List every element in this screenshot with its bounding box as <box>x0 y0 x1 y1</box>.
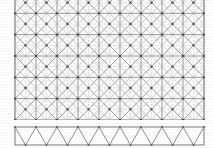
grid-node <box>98 12 100 14</box>
truss-top-node <box>98 126 100 128</box>
grid-node <box>129 44 131 46</box>
grid-node <box>87 66 89 68</box>
grid-node <box>108 66 110 68</box>
truss-top-node <box>203 126 205 128</box>
grid-node <box>140 34 142 36</box>
grid-node <box>171 87 173 89</box>
grid-node <box>203 76 205 78</box>
grid-node <box>66 108 68 110</box>
grid-node <box>150 44 152 46</box>
grid-node <box>24 23 26 25</box>
grid-node <box>66 2 68 4</box>
truss-top-node <box>14 126 16 128</box>
grid-node <box>24 66 26 68</box>
grid-node <box>192 23 194 25</box>
grid-node <box>56 12 58 14</box>
truss-bottom-node <box>67 144 69 146</box>
grid-node <box>108 2 110 4</box>
grid-node <box>161 55 163 57</box>
grid-node <box>182 12 184 14</box>
grid-node <box>35 34 37 36</box>
truss-top-node <box>35 126 37 128</box>
grid-node <box>192 44 194 46</box>
grid-node <box>66 87 68 89</box>
truss-bottom-node <box>193 144 195 146</box>
grid-node <box>24 108 26 110</box>
grid-node <box>182 98 184 100</box>
grid-node <box>35 55 37 57</box>
grid-node <box>98 98 100 100</box>
grid-node <box>171 44 173 46</box>
grid-node <box>77 34 79 36</box>
grid-node <box>150 2 152 4</box>
grid-node <box>45 23 47 25</box>
grid-node <box>66 44 68 46</box>
grid-node <box>14 12 16 14</box>
truss-bottom-node <box>25 144 27 146</box>
grid-node <box>150 23 152 25</box>
grid-node <box>192 66 194 68</box>
truss-bottom-node <box>109 144 111 146</box>
grid-node <box>161 34 163 36</box>
grid-node <box>150 66 152 68</box>
grid-node <box>56 76 58 78</box>
grid-node <box>150 87 152 89</box>
grid-node <box>171 2 173 4</box>
grid-node <box>203 12 205 14</box>
grid-node <box>66 23 68 25</box>
truss-top-node <box>161 126 163 128</box>
grid-node <box>56 34 58 36</box>
grid-node <box>108 108 110 110</box>
grid-node <box>182 34 184 36</box>
grid-node <box>24 2 26 4</box>
truss-drawing-svg <box>0 0 213 148</box>
grid-node <box>56 55 58 57</box>
grid-node <box>77 98 79 100</box>
grid-node <box>14 98 16 100</box>
drawing-canvas <box>0 0 213 148</box>
grid-node <box>98 34 100 36</box>
truss-bottom-node <box>172 144 174 146</box>
grid-node <box>140 76 142 78</box>
grid-node <box>129 66 131 68</box>
truss-top-node <box>77 126 79 128</box>
grid-node <box>45 108 47 110</box>
grid-node <box>87 44 89 46</box>
grid-node <box>45 87 47 89</box>
grid-node <box>119 12 121 14</box>
grid-node <box>203 55 205 57</box>
grid-node <box>56 98 58 100</box>
grid-node <box>119 76 121 78</box>
truss-top-node <box>56 126 58 128</box>
grid-node <box>129 2 131 4</box>
grid-node <box>192 2 194 4</box>
grid-node <box>14 76 16 78</box>
grid-node <box>129 108 131 110</box>
grid-node <box>77 12 79 14</box>
truss-bottom-node <box>130 144 132 146</box>
grid-node <box>171 66 173 68</box>
grid-node <box>171 23 173 25</box>
truss-bottom-node <box>151 144 153 146</box>
truss-top-node <box>140 126 142 128</box>
grid-node <box>171 108 173 110</box>
grid-node <box>35 98 37 100</box>
grid-node <box>140 98 142 100</box>
grid-node <box>35 12 37 14</box>
grid-node <box>87 23 89 25</box>
grid-node <box>14 55 16 57</box>
grid-node <box>150 108 152 110</box>
grid-node <box>203 34 205 36</box>
grid-node <box>119 34 121 36</box>
grid-node <box>77 55 79 57</box>
grid-node <box>192 108 194 110</box>
grid-node <box>98 76 100 78</box>
grid-node <box>119 98 121 100</box>
grid-node <box>192 87 194 89</box>
grid-node <box>45 66 47 68</box>
truss-top-node <box>182 126 184 128</box>
grid-node <box>203 98 205 100</box>
grid-node <box>129 23 131 25</box>
grid-node <box>35 76 37 78</box>
grid-node <box>108 87 110 89</box>
